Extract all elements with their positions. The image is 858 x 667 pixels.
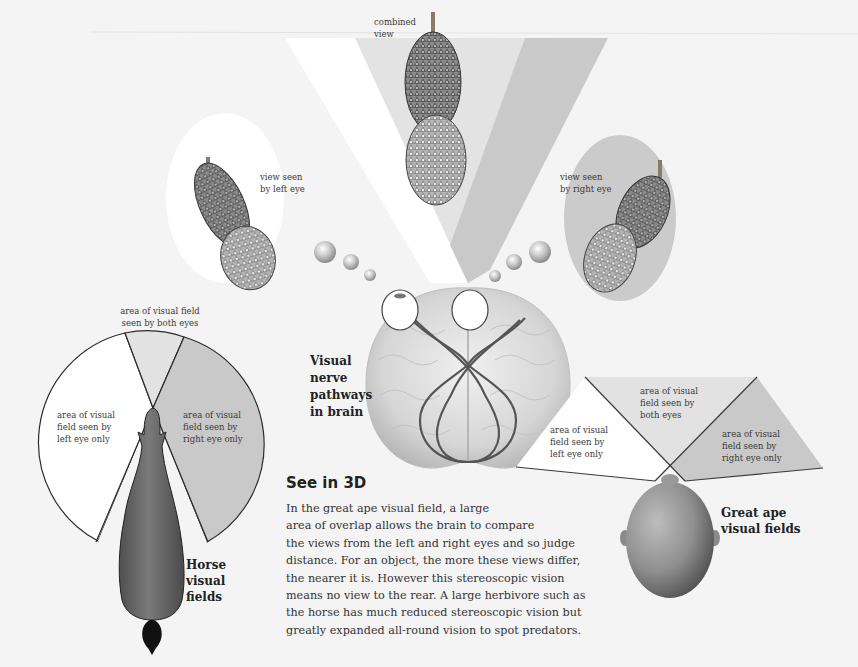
horse-both-eyes-label: area of visual field seen by both eyes bbox=[95, 305, 225, 329]
article-line: distance. For an object, the more these … bbox=[286, 552, 586, 569]
right-eyeball bbox=[452, 290, 488, 330]
right-eye-view-label: view seen by right eye bbox=[560, 171, 612, 195]
ape-title: Great ape visual fields bbox=[721, 505, 801, 537]
combined-view-label: combined view bbox=[374, 16, 416, 40]
article-line: the horse has much reduced stereoscopic … bbox=[286, 604, 586, 621]
thought-bubbles-left bbox=[314, 241, 376, 281]
article-line: In the great ape visual field, a large bbox=[286, 500, 586, 517]
right-eye-view-oval bbox=[564, 135, 681, 301]
horse-title: Horse visual fields bbox=[186, 557, 226, 605]
left-eyeball bbox=[382, 290, 418, 330]
article-heading: See in 3D bbox=[286, 474, 366, 492]
horse-right-eye-label: area of visual field seen by right eye o… bbox=[183, 409, 243, 445]
ape-both-eyes-label: area of visual field seen by both eyes bbox=[640, 385, 698, 421]
left-eye-view-label: view seen by left eye bbox=[260, 171, 305, 195]
ape-left-eye-label: area of visual field seen by left eye on… bbox=[550, 424, 608, 460]
horse-left-eye-label: area of visual field seen by left eye on… bbox=[57, 409, 115, 445]
ape-head-top-view bbox=[620, 474, 720, 598]
left-eye-view-oval bbox=[166, 113, 284, 296]
brain-label: Visual nerve pathways in brain bbox=[310, 353, 372, 421]
article-body: In the great ape visual field, a large a… bbox=[286, 500, 586, 639]
article-line: means no view to the rear. A large herbi… bbox=[286, 587, 586, 604]
ape-right-eye-label: area of visual field seen by right eye o… bbox=[722, 428, 782, 464]
article-line: area of overlap allows the brain to comp… bbox=[286, 517, 586, 534]
article-line: the views from the left and right eyes a… bbox=[286, 535, 586, 552]
article-line: the nearer it is. However this stereosco… bbox=[286, 570, 586, 587]
article-line: greatly expanded all-round vision to spo… bbox=[286, 622, 586, 639]
